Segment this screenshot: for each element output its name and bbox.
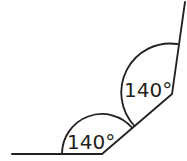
angle-diagram: 140° 140° [0, 0, 187, 161]
upper-angle-label: 140° [124, 78, 172, 102]
lower-angle-label: 140° [67, 130, 115, 154]
